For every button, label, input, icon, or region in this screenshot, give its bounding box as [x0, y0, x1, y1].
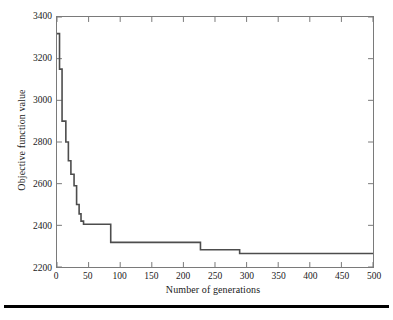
y-tick-label: 3000 — [4, 95, 52, 105]
y-tick-label: 3200 — [4, 53, 52, 63]
plot-svg — [57, 17, 373, 267]
x-tick-label: 500 — [354, 271, 393, 282]
y-tick-label: 2800 — [4, 137, 52, 147]
x-axis-tick-labels: 050100150200250300350400450500 — [56, 271, 374, 285]
x-axis-title: Number of generations — [52, 284, 374, 295]
data-series-line — [57, 34, 373, 254]
page-separator-rule — [4, 305, 389, 308]
y-axis-tick-labels: 3400320030002800260024002200 — [0, 16, 52, 268]
plot-area — [56, 16, 374, 268]
y-tick-label: 2400 — [4, 221, 52, 231]
figure-convergence-chart: Objective function value 340032003000280… — [0, 0, 393, 320]
y-tick-label: 2600 — [4, 179, 52, 189]
y-tick-label: 3400 — [4, 11, 52, 21]
axis-ticks — [57, 17, 373, 267]
